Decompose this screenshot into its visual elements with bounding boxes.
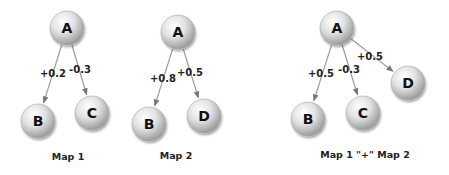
node-label: B: [144, 116, 155, 132]
edge-weight-label: -0.3: [338, 64, 360, 75]
concept-node-c: C: [75, 96, 109, 130]
map-title: Map 1 "+" Map 2: [320, 149, 410, 160]
edge-weight-label: +0.2: [40, 68, 66, 79]
concept-node-b: B: [291, 102, 325, 136]
edge-weight-label: -0.3: [69, 64, 91, 75]
cognitive-map-diagram: ABCABDABCD +0.2-0.3Map 1+0.8+0.5Map 2+0.…: [0, 0, 449, 175]
node-label: A: [173, 24, 184, 40]
node-label: C: [358, 105, 368, 121]
concept-node-a: A: [50, 11, 84, 45]
node-label: D: [198, 108, 210, 124]
node-label: A: [62, 20, 73, 36]
node-label: D: [402, 75, 414, 91]
map-title: Map 1: [52, 151, 85, 162]
edge-weight-label: +0.5: [308, 68, 334, 79]
map-title: Map 2: [160, 150, 193, 161]
concept-node-c: C: [346, 96, 380, 130]
node-label: C: [87, 105, 97, 121]
edge-weight-label: +0.8: [150, 73, 176, 84]
concept-node-a: A: [161, 15, 195, 49]
node-label: B: [303, 111, 314, 127]
concept-node-d: D: [187, 99, 221, 133]
edge-weight-label: +0.5: [357, 51, 383, 62]
concept-node-b: B: [21, 104, 55, 138]
node-label: B: [33, 113, 44, 129]
concept-node-b: B: [132, 107, 166, 141]
node-label: A: [332, 20, 343, 36]
concept-node-d: D: [391, 66, 425, 100]
edge-weight-label: +0.5: [177, 67, 203, 78]
concept-node-a: A: [320, 11, 354, 45]
